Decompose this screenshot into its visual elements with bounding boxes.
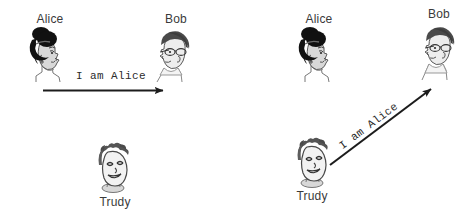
message-label-alice-to-bob: I am Alice [76, 71, 146, 82]
trudy-label: Trudy [292, 190, 332, 202]
bob-head-icon [148, 26, 200, 82]
trudy-label: Trudy [95, 196, 135, 208]
trudy-head-icon [291, 136, 337, 190]
bob-label: Bob [427, 8, 451, 20]
trudy-head-icon [92, 141, 138, 195]
diagram-canvas: Alice [0, 0, 474, 224]
bob-head-icon [413, 22, 465, 80]
alice-label: Alice [302, 13, 336, 25]
alice-head-icon [22, 26, 76, 82]
arrow-trudy-to-bob [328, 80, 442, 176]
alice-head-icon [291, 26, 345, 82]
bob-label: Bob [164, 13, 188, 25]
left-panel-legitimate-authentication: Alice [0, 0, 237, 224]
alice-label: Alice [33, 13, 67, 25]
right-panel-impersonation-attack: Alice Bob [237, 0, 474, 224]
arrow-alice-to-bob [42, 84, 174, 98]
